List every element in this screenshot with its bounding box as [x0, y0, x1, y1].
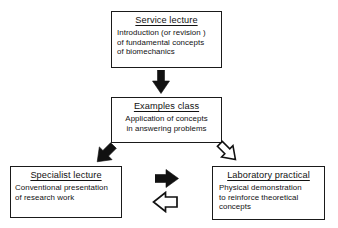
- node-service-lecture-title: Service lecture: [116, 15, 217, 26]
- arrow-down-right-examples-to-laboratory-icon: [216, 140, 240, 164]
- flowchart-diagram: Service lecture Introduction (or revisio…: [0, 0, 338, 228]
- arrow-right-specialist-to-laboratory-icon: [155, 169, 179, 188]
- node-laboratory-practical-body: Physical demonstration to reinforce theo…: [217, 183, 320, 212]
- node-service-lecture-body-line-3: of biomechanics: [117, 47, 217, 57]
- node-laboratory-practical-body-line-2: to reinforce theoretical: [217, 193, 320, 203]
- arrow-down-service-to-examples-icon: [152, 70, 170, 94]
- node-service-lecture-body-line-2: of fundamental concepts: [117, 38, 217, 48]
- node-examples-class-body-line-1: Application of concepts: [116, 114, 217, 124]
- node-examples-class-body: Application of concepts in answering pro…: [116, 114, 217, 133]
- node-examples-class-title: Examples class: [116, 101, 217, 112]
- node-specialist-lecture-body-line-2: of research work: [15, 193, 117, 203]
- node-specialist-lecture: Specialist lecture Conventional presenta…: [10, 166, 122, 218]
- node-laboratory-practical-title: Laboratory practical: [217, 170, 320, 181]
- node-service-lecture: Service lecture Introduction (or revisio…: [111, 11, 222, 68]
- node-examples-class-body-line-2: in answering problems: [116, 124, 217, 134]
- node-laboratory-practical-body-line-3: concepts: [217, 202, 320, 212]
- node-service-lecture-body-line-1: Introduction (or revision ): [117, 28, 217, 38]
- node-specialist-lecture-body-line-1: Conventional presentation: [15, 183, 117, 193]
- node-service-lecture-body: Introduction (or revision ) of fundament…: [116, 28, 217, 57]
- node-laboratory-practical: Laboratory practical Physical demonstrat…: [212, 166, 325, 220]
- node-specialist-lecture-title: Specialist lecture: [15, 170, 117, 181]
- node-specialist-lecture-body: Conventional presentation of research wo…: [15, 183, 117, 202]
- arrow-down-left-examples-to-specialist-icon: [93, 142, 117, 166]
- arrow-left-laboratory-to-specialist-icon: [152, 191, 178, 213]
- node-examples-class: Examples class Application of concepts i…: [111, 97, 222, 143]
- node-laboratory-practical-body-line-1: Physical demonstration: [217, 183, 320, 193]
